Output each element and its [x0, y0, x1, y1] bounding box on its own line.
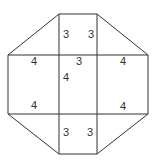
label-center-3: 3: [76, 55, 82, 67]
label-top-left-3: 3: [63, 28, 69, 40]
label-left-lower-4: 4: [31, 99, 37, 111]
octagon-diagram: 3 3 4 3 4 4 4 4 3 3: [0, 0, 159, 162]
label-right-upper-4: 4: [120, 55, 126, 67]
label-bottom-right-3: 3: [87, 126, 93, 138]
label-bottom-left-3: 3: [63, 126, 69, 138]
label-left-upper-4: 4: [31, 55, 37, 67]
label-center-4: 4: [63, 71, 69, 83]
label-top-right-3: 3: [88, 28, 94, 40]
octagon-outline: [8, 14, 148, 154]
label-right-lower-4: 4: [120, 100, 126, 112]
